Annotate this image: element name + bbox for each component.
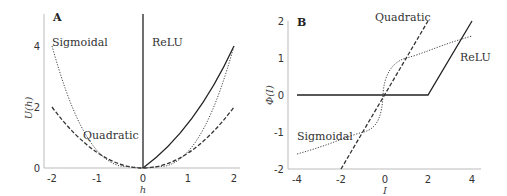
panel-b-relu-line (297, 21, 472, 95)
panel-a-xtick: 2 (231, 173, 237, 184)
panel-a-ylabel: U(h) (23, 97, 34, 120)
panel-b-annot-quadratic: Quadratic (375, 11, 431, 24)
panel-a-xlabel: h (140, 184, 146, 195)
panel-a-xtick: 0 (140, 173, 146, 184)
panel-a-annot-relu: ReLU (152, 36, 183, 49)
panel-b-xtick: 2 (425, 174, 431, 185)
panel-b-annot-sigmoidal: Sigmoidal (297, 130, 353, 143)
panel-b-xtick: -4 (292, 174, 302, 185)
panel-a-xtick: -1 (92, 173, 102, 184)
panel-b-ytick: 1 (278, 53, 284, 64)
panel-a-ytick: 4 (34, 41, 40, 52)
panel-a-annot-quadratic: Quadratic (83, 129, 139, 142)
panel-b-ylabel: Φ(I) (264, 85, 275, 105)
panel-a-annot-sigmoidal: Sigmoidal (52, 36, 108, 49)
panel-b-ytick: -2 (274, 164, 284, 175)
panel-b-xtick: 0 (382, 174, 388, 185)
figure: 0 2 4 -2 -1 0 1 2 h U(h) A Sigmoidal ReL… (0, 0, 507, 196)
panel-a-ytick: 0 (34, 163, 40, 174)
panel-b: 2 1 0 -1 -2 -4 -2 0 2 4 I Φ(I) B Quadrat… (264, 11, 491, 196)
panel-b-ytick: 0 (278, 90, 284, 101)
panel-a-xtick: 1 (185, 173, 191, 184)
panel-b-xtick: 4 (469, 174, 475, 185)
panel-a-label: A (52, 11, 62, 24)
panel-a-relu-curve (143, 46, 234, 168)
panel-b-label: B (297, 16, 306, 29)
panel-b-ytick: 2 (278, 16, 284, 27)
panel-b-ytick: -1 (274, 127, 284, 138)
panel-b-annot-relu: ReLU (460, 51, 491, 64)
panel-b-xlabel: I (382, 185, 388, 196)
panel-a-xtick: -2 (47, 173, 57, 184)
panel-a: 0 2 4 -2 -1 0 1 2 h U(h) A Sigmoidal ReL… (23, 11, 240, 195)
panel-b-xtick: -2 (336, 174, 346, 185)
panel-a-ytick: 2 (34, 102, 40, 113)
